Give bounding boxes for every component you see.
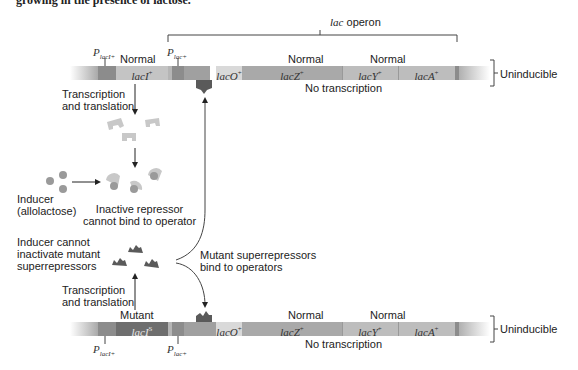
superrepressor-icon xyxy=(112,258,127,266)
superrepressor-icon xyxy=(128,245,143,253)
bound-superrepressor-bottom xyxy=(196,311,212,322)
repressor-icon xyxy=(122,133,136,141)
superrepressor-icon xyxy=(144,259,159,268)
operon-bracket xyxy=(168,35,457,42)
repressor-icon xyxy=(145,118,160,127)
arrow-to-top-operator xyxy=(176,100,205,260)
inducer-icon xyxy=(46,177,54,185)
inducer-icon xyxy=(150,172,158,180)
inducer-icon xyxy=(110,182,118,190)
diagram-graphics xyxy=(0,0,578,370)
inducer-icon xyxy=(59,185,67,193)
inactive-repressors xyxy=(106,168,162,193)
bottom-result-bracket xyxy=(490,316,498,342)
top-result-bracket xyxy=(490,60,498,86)
arrow-to-bottom-operator xyxy=(176,263,205,305)
repressor-icon xyxy=(107,118,124,130)
bound-superrepressor-top xyxy=(196,80,212,94)
inducer-icon xyxy=(59,171,67,179)
normal-repressors xyxy=(107,118,160,141)
inducer-icon xyxy=(130,185,138,193)
mutant-superrepressors xyxy=(112,245,159,268)
inducer-molecules xyxy=(46,171,67,193)
